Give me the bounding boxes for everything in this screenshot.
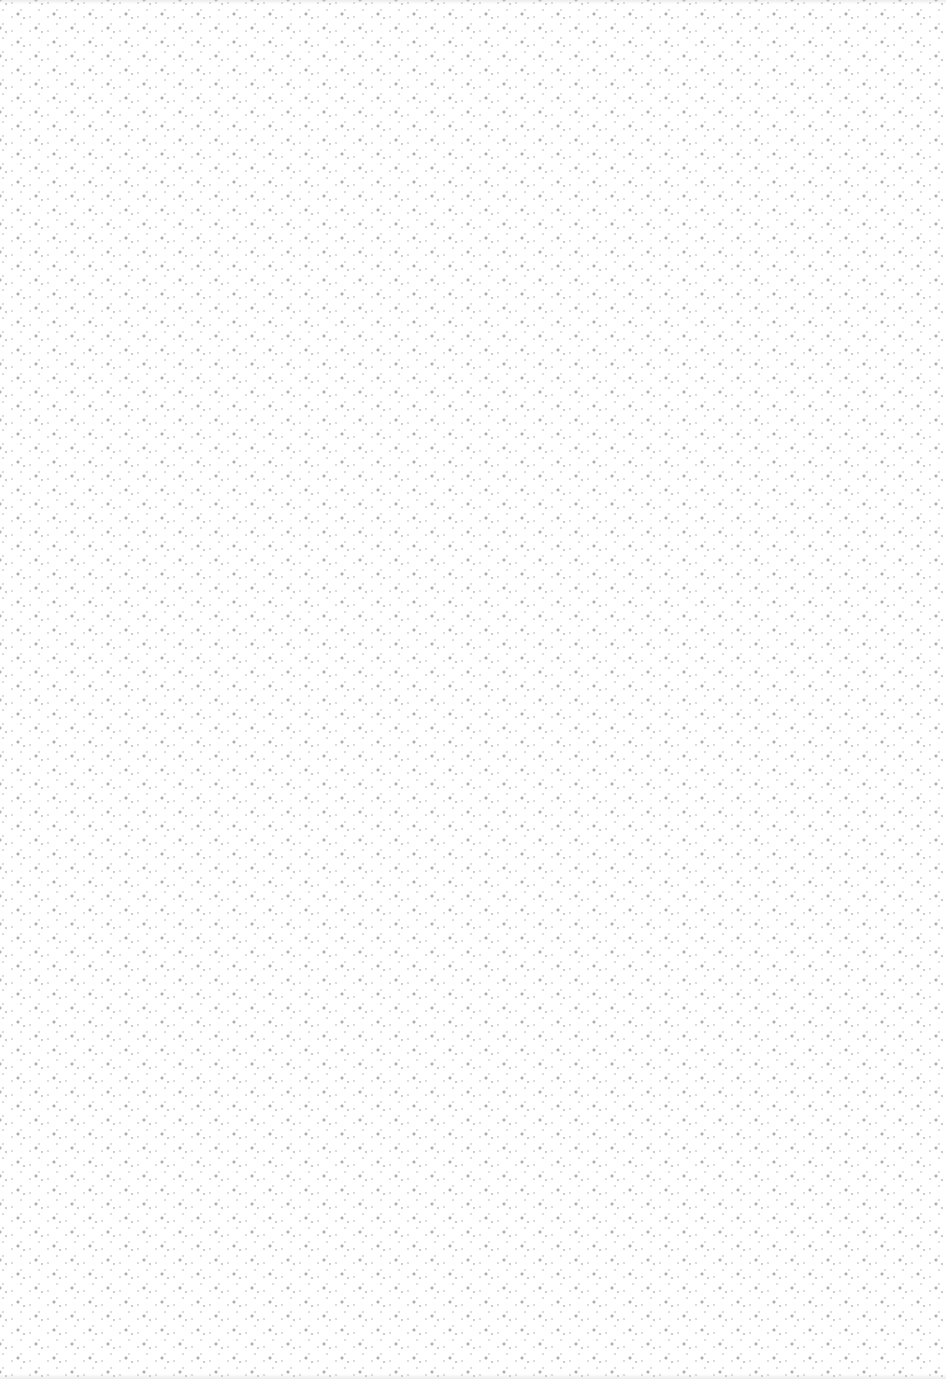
dot-pattern-background xyxy=(0,0,946,1379)
top-edge-shading xyxy=(0,0,946,4)
bottom-edge-shading xyxy=(0,1374,946,1379)
